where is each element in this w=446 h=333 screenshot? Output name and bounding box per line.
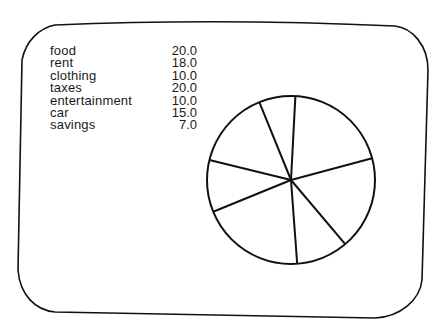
pie-chart bbox=[0, 0, 446, 333]
